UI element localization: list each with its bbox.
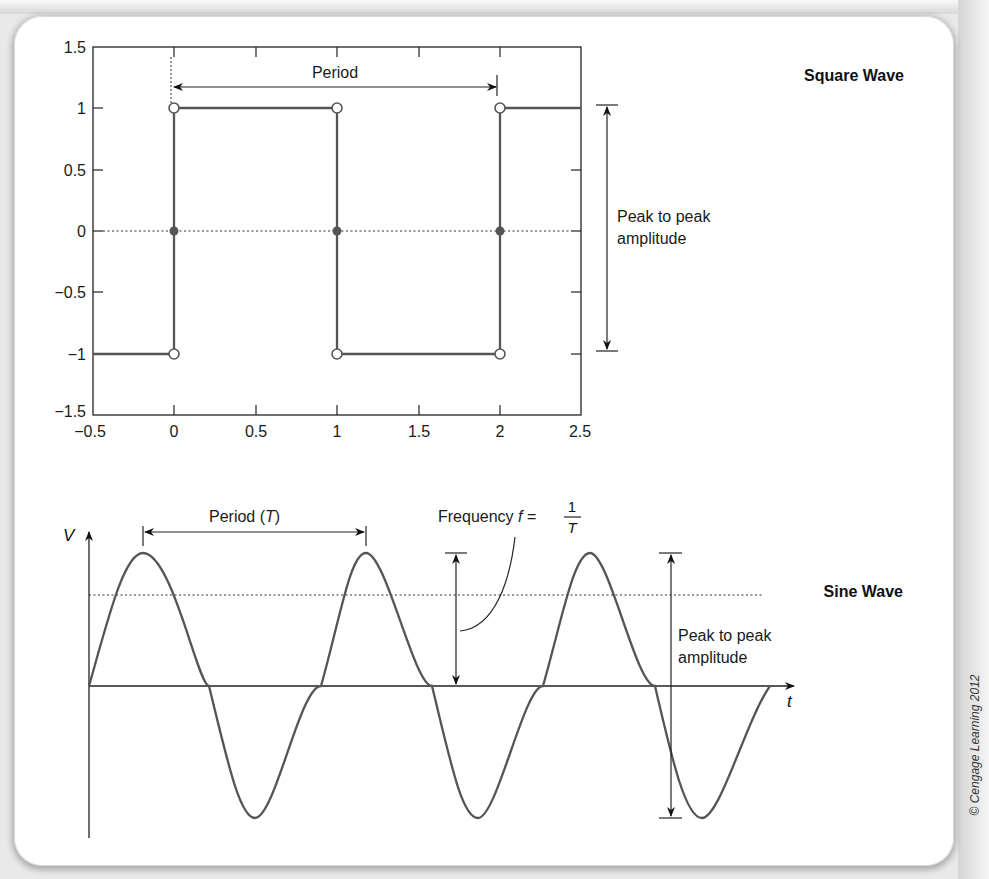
y-tick-label: 0 [77, 223, 86, 240]
period-label: Period (T) [209, 508, 280, 525]
copyright-notice: © Cengage Learning 2012 [968, 675, 982, 816]
x-tick-label: −0.5 [74, 423, 106, 440]
frequency-denominator: T [567, 519, 578, 536]
amplitude-label-line1: Peak to peak [617, 208, 711, 225]
x-tick-label: 2 [496, 423, 505, 440]
square-wave-chart: 1.5 1 0.5 0 −0.5 −1 −1.5 −0.5 0 0.5 1 1.… [54, 39, 904, 440]
figure-canvas: 1.5 1 0.5 0 −0.5 −1 −1.5 −0.5 0 0.5 1 1.… [0, 0, 989, 879]
y-tick-label: −1.5 [54, 403, 86, 420]
x-tick-label: 0 [170, 423, 179, 440]
y-tick-label: 1.5 [64, 39, 86, 56]
x-tick-label: 1 [333, 423, 342, 440]
v-axis-label: V [63, 526, 76, 545]
frequency-leader-line [460, 537, 515, 631]
x-tick-label: 2.5 [569, 423, 591, 440]
y-tick-label: −0.5 [54, 284, 86, 301]
x-tick-label: 0.5 [245, 423, 267, 440]
y-tick-label: 1 [77, 100, 86, 117]
frequency-label: Frequency f = [438, 508, 536, 525]
square-wave-title: Square Wave [804, 67, 904, 84]
amplitude-label-line1: Peak to peak [678, 627, 772, 644]
amplitude-label-line2: amplitude [678, 649, 747, 666]
x-tick-label: 1.5 [408, 423, 430, 440]
y-tick-label: −1 [68, 346, 86, 363]
sine-wave-title: Sine Wave [824, 583, 904, 600]
y-tick-label: 0.5 [64, 162, 86, 179]
period-label: Period [312, 64, 358, 81]
sine-wave-chart: V t Period (T) Frequency f = 1 T Peak to… [63, 498, 903, 838]
frequency-numerator: 1 [568, 498, 576, 515]
amplitude-label-line2: amplitude [617, 230, 686, 247]
t-axis-label: t [787, 692, 793, 711]
